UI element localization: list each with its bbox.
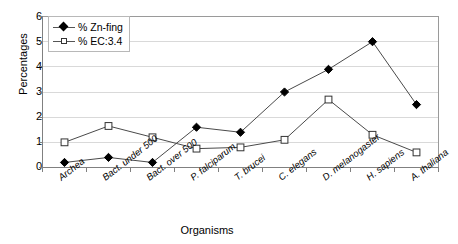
open-square-marker-icon	[53, 35, 75, 47]
line-chart: Percentages 0 1 2 3 4 5 6 ArcheaBact. un…	[0, 0, 458, 244]
data-point-ec-34-6	[325, 96, 332, 103]
x-axis-title: Organisms	[180, 224, 233, 236]
x-axis-title-wrap: Organisms	[0, 224, 458, 236]
legend-item-ec-34: % EC:3.4	[53, 34, 123, 48]
legend-item-zn-fing: % Zn-fing	[53, 20, 123, 34]
data-point-ec-34-4	[237, 144, 244, 151]
filled-diamond-marker-icon	[53, 21, 75, 33]
data-point-zn-fing-8	[412, 100, 420, 108]
legend-label-zn-fing: % Zn-fing	[78, 21, 123, 33]
data-point-zn-fing-1	[104, 153, 112, 161]
data-point-zn-fing-7	[368, 38, 376, 46]
data-point-ec-34-8	[413, 149, 420, 156]
legend-label-ec-34: % EC:3.4	[78, 35, 122, 47]
data-point-ec-34-5	[281, 136, 288, 143]
legend: % Zn-fing % EC:3.4	[48, 16, 130, 52]
data-point-ec-34-1	[105, 123, 112, 130]
data-point-ec-34-0	[61, 139, 68, 146]
